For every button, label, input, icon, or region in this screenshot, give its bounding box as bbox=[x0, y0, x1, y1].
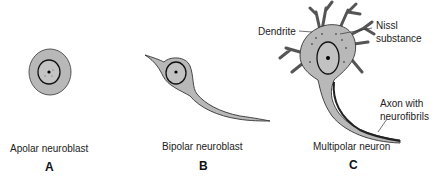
apolar-neuroblast-cell bbox=[29, 49, 71, 95]
panel-letter-b: B bbox=[199, 159, 208, 173]
axon-label-line2: neurofibrils bbox=[380, 111, 429, 122]
caption-multipolar: Multipolar neuron bbox=[313, 141, 390, 152]
nissl-label-line2: substance bbox=[376, 33, 422, 44]
caption-apolar: Apolar neuroblast bbox=[10, 143, 88, 154]
panel-letter-c: C bbox=[349, 158, 358, 172]
nissl-label-line1: Nissl bbox=[376, 20, 398, 31]
dendrite-leader-line bbox=[299, 31, 312, 32]
dendrite-label: Dendrite bbox=[258, 26, 296, 37]
caption-bipolar: Bipolar neuroblast bbox=[162, 141, 243, 152]
axon-label-line1: Axon with bbox=[380, 98, 423, 109]
panel-letter-a: A bbox=[45, 160, 54, 174]
bipolar-neuroblast-cell bbox=[145, 55, 270, 121]
